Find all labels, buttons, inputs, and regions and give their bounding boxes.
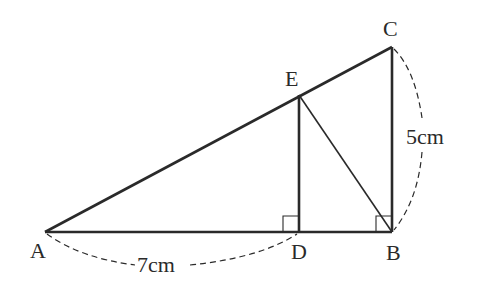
dimension-arc-bc-bottom	[394, 152, 422, 230]
dimension-arc-ad	[47, 234, 135, 265]
geometry-diagram: A D B C E 7cm 5cm	[0, 0, 484, 286]
label-length-ad: 7cm	[137, 252, 175, 277]
label-point-c: C	[383, 16, 398, 41]
right-angle-mark-d	[283, 216, 299, 232]
label-point-e: E	[285, 66, 298, 91]
label-point-b: B	[386, 240, 401, 265]
label-point-d: D	[291, 239, 307, 264]
dimension-arc-ad-right	[190, 234, 297, 265]
segment-eb	[299, 95, 392, 232]
dimension-arc-bc-top	[394, 49, 422, 118]
label-length-bc: 5cm	[406, 124, 444, 149]
label-point-a: A	[30, 238, 46, 263]
diagram-canvas: A D B C E 7cm 5cm	[0, 0, 484, 286]
segment-ac	[45, 47, 392, 232]
